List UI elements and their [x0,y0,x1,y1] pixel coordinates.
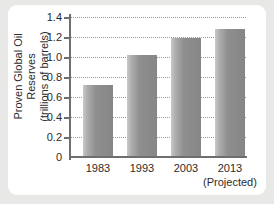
x-tick-note-2013: (Projected) [200,176,260,188]
y-tick-label-0-8: 0.8 [16,72,62,83]
bar-2013 [215,29,245,157]
bar-1983 [83,85,113,157]
y-tick-labels: 1.4 1.2 1.0 0.8 0.6 0.4 0.2 0 [12,0,62,204]
y-tick-1-2 [64,37,71,39]
y-tick-0-2 [64,137,71,139]
bar-2003 [171,38,201,157]
y-tick-0-8 [64,77,71,79]
y-tick-1-4 [64,17,71,19]
y-tick-label-1-2: 1.2 [16,32,62,43]
plot-area [71,17,246,157]
y-tick-label-1-0: 1.0 [16,52,62,63]
x-axis-line [69,156,247,158]
y-tick-label-1-4: 1.4 [16,12,62,23]
y-tick-1-0 [64,57,71,59]
y-tick-label-0-2: 0.2 [16,132,62,143]
chart-screenshot: Proven Global Oil Reserves (trillions of… [0,0,274,204]
y-tick-0-6 [64,97,71,99]
y-tick-label-0-4: 0.4 [16,112,62,123]
x-tick-label-2013: 2013 [200,162,260,174]
y-tick-0-4 [64,117,71,119]
y-tick-label-0: 0 [16,152,62,163]
y-tick-label-0-6: 0.6 [16,92,62,103]
bar-1993 [127,55,157,157]
gridline-1-4 [71,17,246,18]
